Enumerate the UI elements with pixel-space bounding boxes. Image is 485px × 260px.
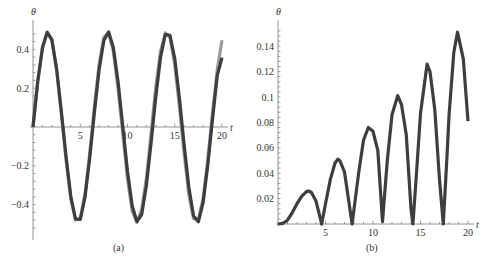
y-tick-label: 0.4 <box>17 44 30 55</box>
panel-b-y-axis-label: θ <box>276 6 281 17</box>
y-tick-label: 0.2 <box>17 83 30 94</box>
panel-b-x-axis-label: t <box>476 219 479 230</box>
panel-a-y-axis-label: θ <box>31 6 36 17</box>
x-tick-label: 15 <box>416 227 426 238</box>
y-tick-label: 0.12 <box>257 66 275 77</box>
y-tick-label: −0.4 <box>11 199 29 210</box>
y-tick-label: 0.1 <box>262 92 275 103</box>
x-tick-label: 5 <box>78 130 83 141</box>
x-tick-label: 10 <box>368 227 378 238</box>
y-tick-label: 0.08 <box>257 117 275 128</box>
panel-a-x-axis-label: t <box>230 122 233 133</box>
y-tick-label: 0.02 <box>257 193 275 204</box>
x-tick-label: 20 <box>217 130 227 141</box>
figure: 51015200.40.2−0.2−0.4 θ t (a) 51015200.0… <box>0 0 485 260</box>
x-tick-label: 15 <box>170 130 180 141</box>
panel-b-chart: 51015200.020.040.060.080.10.120.14 θ t (… <box>257 6 480 254</box>
x-tick-label: 5 <box>323 227 328 238</box>
panel-b-caption: (b) <box>366 242 378 254</box>
y-tick-label: −0.2 <box>11 160 29 171</box>
panel-a-chart: 51015200.40.2−0.2−0.4 θ t (a) <box>11 6 233 254</box>
x-tick-label: 20 <box>463 227 473 238</box>
y-tick-label: 0.06 <box>257 142 275 153</box>
panel-a-caption: (a) <box>113 242 124 254</box>
y-tick-label: 0.04 <box>257 168 275 179</box>
y-tick-label: 0.14 <box>257 41 275 52</box>
panel-b-series-difference <box>278 32 468 224</box>
